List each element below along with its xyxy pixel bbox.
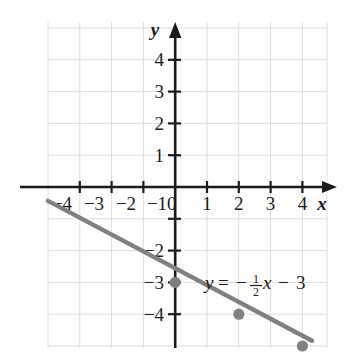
y-tick-label: 3 — [155, 81, 165, 102]
coordinate-graph-figure: −4 −3 −2 −1 0 1 2 3 4 4 3 2 1 −2 −3 −4 y… — [0, 0, 345, 358]
graph-canvas: −4 −3 −2 −1 0 1 2 3 4 4 3 2 1 −2 −3 −4 y… — [0, 0, 345, 358]
equation-variable: x — [262, 272, 272, 293]
x-tick-label: 2 — [234, 193, 244, 214]
equation-minus: − — [236, 272, 247, 293]
equation-constant: 3 — [296, 272, 306, 293]
equation-fraction-denominator: 2 — [253, 285, 259, 299]
y-tick-label: 2 — [155, 113, 165, 134]
equation-minus-2: − — [278, 272, 289, 293]
background — [0, 0, 345, 358]
x-tick-label: −2 — [116, 193, 136, 214]
x-tick-label-zero: 0 — [167, 193, 177, 214]
equation-equals: = — [218, 272, 229, 293]
x-tick-label: −1 — [147, 193, 167, 214]
x-tick-label: 4 — [298, 193, 308, 214]
x-tick-label: −3 — [84, 193, 104, 214]
y-tick-label: −3 — [144, 272, 164, 293]
y-tick-label: −4 — [144, 304, 165, 325]
x-tick-label: 3 — [266, 193, 276, 214]
x-axis-label: x — [316, 193, 327, 214]
data-point — [297, 340, 308, 351]
equation-lhs: y — [203, 272, 214, 293]
equation-fraction-numerator: 1 — [253, 272, 259, 286]
data-point — [170, 277, 181, 288]
x-tick-label: 1 — [202, 193, 212, 214]
y-axis-label: y — [149, 19, 160, 40]
y-tick-label: 4 — [155, 49, 165, 70]
y-tick-label: 1 — [155, 145, 165, 166]
data-point — [233, 309, 244, 320]
